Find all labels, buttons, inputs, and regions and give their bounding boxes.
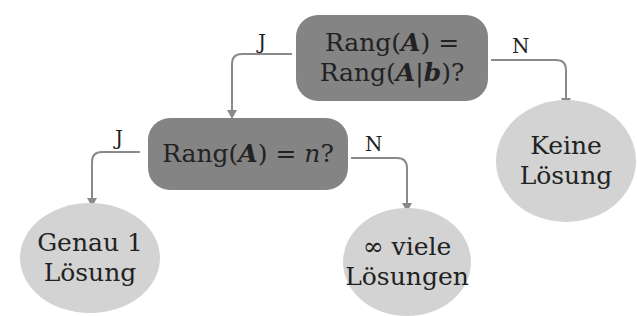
edge-d2-yes [92, 152, 140, 200]
text: | [415, 58, 423, 87]
text: Rang( [320, 58, 396, 87]
edge-d2-no [351, 158, 407, 205]
text: Rang( [325, 28, 401, 57]
leaf-no-solution: KeineLösung [496, 100, 636, 222]
text: ∞ viele [345, 232, 469, 262]
edge-label-d1-yes: J [258, 30, 266, 54]
edge-d1-yes [232, 54, 292, 112]
matrix-a: A [401, 28, 420, 57]
vector-b: b [424, 58, 441, 87]
text: ) = [258, 139, 305, 168]
text: ? [320, 139, 333, 168]
matrix-a: A [238, 139, 257, 168]
edge-label-d1-no: N [512, 34, 530, 58]
edge-label-d2-no: N [365, 132, 383, 156]
text: Keine [520, 131, 613, 161]
text: Lösung [37, 258, 143, 288]
leaf-one-solution: Genau 1Lösung [20, 203, 160, 313]
text: Lösung [520, 161, 613, 191]
text: Genau 1 [37, 228, 143, 258]
text: Rang( [162, 139, 238, 168]
text: Lösungen [345, 262, 469, 292]
leaf-infinite-solutions: ∞ vieleLösungen [343, 208, 471, 316]
matrix-a: A [396, 58, 415, 87]
edge-label-d2-yes: J [115, 126, 123, 150]
text: )? [441, 58, 464, 87]
decision-rank-equal: Rang(A) = Rang(A|b)? [296, 15, 488, 101]
text: ) = [420, 28, 459, 57]
edge-d1-no [491, 60, 566, 100]
decision-rank-n: Rang(A) = n? [148, 118, 348, 190]
var-n: n [304, 139, 320, 168]
